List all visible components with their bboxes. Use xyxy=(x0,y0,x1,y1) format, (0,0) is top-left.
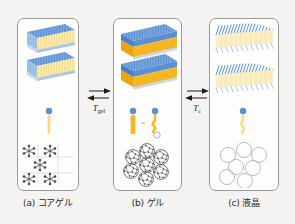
lamellae-stack-liquid-crystal xyxy=(211,20,277,100)
transition-label-tgel: Tgel xyxy=(84,104,114,113)
single-molecule-liquid-crystal xyxy=(232,106,254,138)
transition-subscript-tgel: gel xyxy=(98,108,105,114)
lamellae-stack-coagel xyxy=(19,20,77,96)
caption-panel-liquid-crystal: (c) 液晶 xyxy=(204,196,284,209)
transition-label-tc: Tc xyxy=(182,104,212,113)
phase-transition-figure: (a) コアゲル Tgel xyxy=(0,0,295,224)
caption-panel-coagel: (a) コアゲル xyxy=(8,196,88,209)
molecules-gel xyxy=(124,106,172,140)
packing-disordered-liquid-crystal xyxy=(212,142,276,188)
packing-crystalline-coagel xyxy=(20,142,76,188)
transition-arrow-tc: Tc xyxy=(182,86,212,113)
equilibrium-arrow-icon xyxy=(86,86,112,103)
lamellae-stack-gel xyxy=(115,20,180,96)
single-molecule-coagel xyxy=(38,106,60,138)
transition-subscript-tc: c xyxy=(198,108,201,114)
transition-arrow-tgel: Tgel xyxy=(84,86,114,113)
packing-hydrated-gel xyxy=(116,142,179,188)
equilibrium-arrow-icon xyxy=(184,86,210,103)
caption-panel-gel: (b) ゲル xyxy=(108,196,188,209)
